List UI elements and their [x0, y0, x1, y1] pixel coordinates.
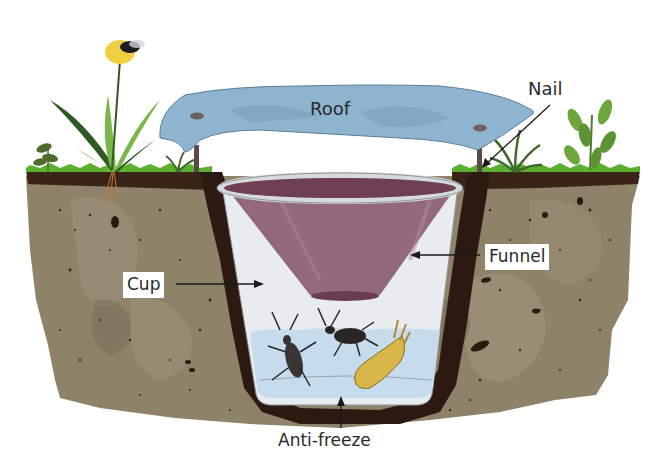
nail-label: Nail [528, 80, 563, 98]
cup [217, 173, 463, 405]
cup-label: Cup [123, 272, 164, 298]
funnel-label: Funnel [485, 244, 549, 270]
nail-left [194, 145, 199, 172]
antifreeze-label: Anti-freeze [274, 428, 375, 454]
pitfall-trap-diagram [0, 0, 666, 476]
leafy-plant-right [561, 98, 619, 170]
roof-label: Roof [310, 100, 350, 118]
